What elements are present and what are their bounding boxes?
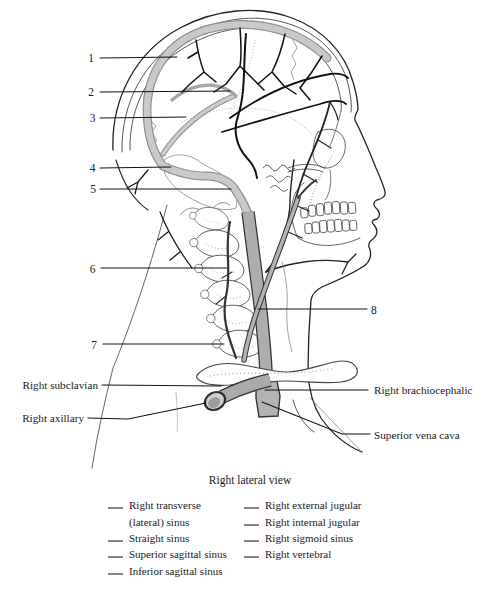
teeth [300,200,357,234]
legend-item-right-vertebral: Right vertebral [265,548,331,560]
label-right-subclavian: Right subclavian [22,379,98,391]
legend-left-column: Right transverse (lateral) sinus Straigh… [129,499,227,577]
venous-drainage-diagram: 1 2 3 4 5 6 7 8 Right subclavian Right a… [0,0,490,594]
callout-number-4: 4 [90,162,96,174]
callout-number-8: 8 [371,304,377,316]
label-right-brachiocephalic: Right brachiocephalic [374,384,473,396]
shoulder-lines [293,398,360,450]
figure-caption: Right lateral view [209,474,292,487]
legend-item-right-transverse-line2: (lateral) sinus [129,516,189,529]
legend-item-straight-sinus: Straight sinus [129,532,189,544]
frontal-bone-edge [330,111,341,146]
clavicle [197,361,358,385]
facial-vein [266,102,330,272]
legend-item-superior-sagittal-sinus: Superior sagittal sinus [129,548,227,560]
callout-number-5: 5 [90,183,96,195]
orbit [313,129,345,168]
leader-right-subclavian [102,385,221,386]
legend-right-column: Right external jugular Right internal ju… [265,499,362,560]
legend-item-right-internal-jugular: Right internal jugular [265,516,360,528]
label-right-axillary: Right axillary [22,412,84,424]
maxilla-edge [325,170,331,200]
straight-sinus-band [163,96,234,154]
head-outline [92,10,385,468]
nape-vein [158,212,192,268]
callout-number-7: 7 [91,339,97,351]
legend: Right transverse (lateral) sinus Straigh… [108,499,362,577]
legend-item-right-external-jugular: Right external jugular [265,499,362,511]
workbook-page: 1 2 3 4 5 6 7 8 Right subclavian Right a… [0,0,490,594]
leader-2 [100,91,230,92]
legend-item-right-transverse: Right transverse [129,499,201,511]
leader-right-axillary [88,403,206,419]
straight-sinus-stipple [163,96,234,154]
cortical-vein-tree-2 [214,28,264,92]
callout-number-6: 6 [90,263,96,275]
leader-3 [100,117,186,118]
callout-number-2: 2 [88,86,94,98]
anastomotic-vein-1 [230,74,348,118]
label-superior-vena-cava: Superior vena cava [374,429,460,441]
legend-item-inferior-sagittal-sinus: Inferior sagittal sinus [129,565,222,577]
legend-item-right-sigmoid-sinus: Right sigmoid sinus [265,532,353,544]
occipital-vein-branches [127,170,148,194]
back-contour [92,205,167,468]
callout-number-3: 3 [90,112,96,124]
callout-number-1: 1 [88,52,94,64]
